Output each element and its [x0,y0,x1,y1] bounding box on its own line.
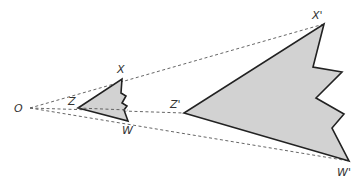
dilation-diagram: O X Z W X' Z' W' [0,0,362,182]
original-figure [78,79,128,121]
label-x-prime: X' [311,9,323,22]
dilated-figure [184,24,349,161]
label-center-o: O [14,102,23,115]
label-z: Z [67,95,76,108]
label-z-prime: Z' [169,98,181,111]
label-w: W [122,124,134,137]
label-w-prime: W' [337,166,351,179]
label-x: X [116,63,125,76]
